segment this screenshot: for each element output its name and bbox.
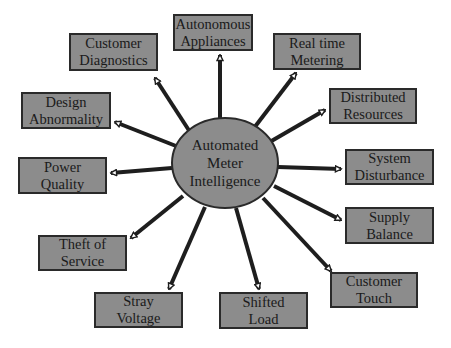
center-line-3: Intelligence — [172, 172, 278, 190]
node-label-line: Real time — [289, 35, 345, 52]
arrow-stray-voltage — [169, 207, 205, 289]
node-autonomous-appliances: Autonomous Appliances — [173, 14, 253, 51]
node-system-disturbance: System Disturbance — [345, 149, 434, 185]
node-label-line: Voltage — [116, 310, 160, 327]
center-line-2: Meter — [172, 154, 278, 172]
arrow-design-abnormality — [115, 122, 176, 146]
node-label-line: Balance — [366, 226, 413, 243]
node-label-line: Appliances — [180, 33, 245, 50]
node-label-line: Load — [249, 311, 279, 328]
amr-diagram: Automated Meter Intelligence Autonomous … — [0, 0, 451, 348]
node-customer-touch: Customer Touch — [330, 272, 418, 308]
node-stray-voltage: Stray Voltage — [94, 292, 183, 328]
node-supply-balance: Supply Balance — [345, 207, 434, 244]
node-label-line: Abnormality — [29, 111, 103, 128]
center-hub-label: Automated Meter Intelligence — [172, 136, 278, 192]
arrow-power-quality — [111, 168, 172, 173]
node-label-line: Resources — [343, 106, 403, 123]
arrow-theft-of-service — [131, 196, 183, 238]
node-label-line: Service — [61, 253, 104, 270]
arrow-supply-balance — [274, 186, 341, 220]
node-label-line: Diagnostics — [79, 52, 147, 69]
node-real-time-metering: Real time Metering — [273, 33, 361, 70]
node-distributed-resources: Distributed Resources — [329, 88, 417, 124]
node-label-line: Theft of — [59, 236, 106, 253]
node-power-quality: Power Quality — [18, 157, 107, 194]
node-theft-of-service: Theft of Service — [38, 235, 127, 271]
arrow-real-time-metering — [254, 73, 296, 128]
arrow-system-disturbance — [278, 167, 341, 169]
node-customer-diagnostics: Customer Diagnostics — [69, 33, 158, 71]
node-label-line: Power — [44, 159, 81, 176]
node-label-line: Touch — [356, 290, 392, 307]
node-shifted-load: Shifted Load — [219, 292, 308, 329]
node-label-line: Design — [45, 94, 86, 111]
node-label-line: Shifted — [243, 294, 285, 311]
node-label-line: Customer — [346, 273, 402, 290]
node-label-line: Autonomous — [176, 16, 251, 33]
node-label-line: Quality — [41, 176, 85, 193]
arrow-customer-diagnostics — [155, 78, 190, 132]
node-label-line: Disturbance — [354, 167, 424, 184]
center-line-1: Automated — [172, 136, 278, 154]
node-label-line: Distributed — [340, 89, 405, 106]
node-label-line: Supply — [369, 209, 410, 226]
node-label-line: Stray — [123, 293, 154, 310]
node-label-line: Customer — [85, 35, 141, 52]
arrow-shifted-load — [236, 208, 259, 289]
node-label-line: System — [368, 150, 411, 167]
node-design-abnormality: Design Abnormality — [21, 92, 111, 129]
node-label-line: Metering — [290, 52, 343, 69]
